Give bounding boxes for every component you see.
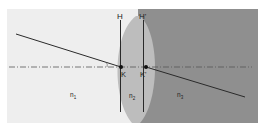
label-k: K [121,70,126,79]
label-h-prime: H' [139,12,147,21]
nodal-point-k-prime [144,65,148,69]
label-h: H [117,12,123,21]
thick-lens-diagram: H H' K K' n1 n2 n3 [0,0,264,133]
medium-3-region [138,9,258,123]
nodal-point-k [119,65,123,69]
label-k-prime: K' [140,70,147,79]
